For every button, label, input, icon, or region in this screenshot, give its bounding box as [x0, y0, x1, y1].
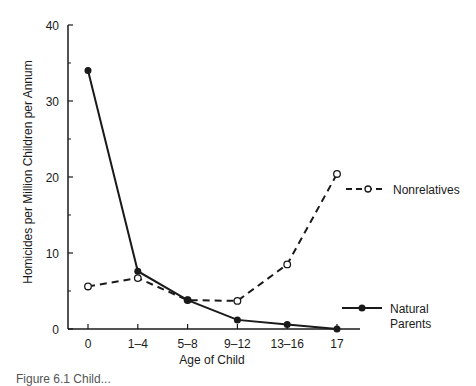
data-point [134, 268, 141, 275]
series-line [88, 71, 337, 329]
y-axis-title: Homicides per Million Children per Annum [21, 60, 35, 283]
legend: NonrelativesNaturalParents [342, 183, 460, 331]
x-tick-label: 0 [85, 337, 92, 351]
x-tick-label: 5–8 [178, 337, 198, 351]
data-point [85, 67, 92, 74]
y-tick-label: 10 [46, 247, 60, 261]
legend-marker [365, 186, 371, 192]
y-tick-label: 30 [46, 95, 60, 109]
x-tick-label: 17 [330, 337, 344, 351]
data-point [135, 275, 142, 282]
x-ticks: 01–45–89–1213–1617 [85, 324, 344, 351]
legend-label: Natural [390, 302, 429, 316]
x-tick-label: 13–16 [271, 337, 305, 351]
data-point [334, 171, 341, 178]
series-nonrelatives [85, 171, 341, 305]
data-point [234, 298, 241, 305]
series-natural-parents [85, 67, 341, 332]
legend-item-natural-parents: NaturalParents [342, 302, 431, 331]
data-point [284, 321, 291, 328]
y-tick-label: 0 [52, 323, 59, 337]
series-line [88, 174, 337, 301]
data-point [334, 326, 341, 333]
legend-label: Nonrelatives [393, 183, 460, 197]
data-point [85, 283, 92, 290]
data-point [234, 316, 241, 323]
figure-caption: Figure 6.1 Child... [16, 372, 111, 386]
y-tick-label: 20 [46, 171, 60, 185]
legend-item-nonrelatives: Nonrelatives [346, 183, 460, 197]
axes [68, 25, 360, 329]
series-layer [85, 67, 341, 332]
y-ticks: 010203040 [46, 19, 73, 337]
legend-label: Parents [390, 317, 431, 331]
x-tick-label: 9–12 [224, 337, 251, 351]
y-tick-label: 40 [46, 19, 60, 33]
legend-marker [359, 305, 366, 312]
data-point [184, 297, 191, 304]
x-axis-title: Age of Child [179, 353, 244, 367]
x-tick-label: 1–4 [128, 337, 148, 351]
data-point [284, 261, 291, 268]
